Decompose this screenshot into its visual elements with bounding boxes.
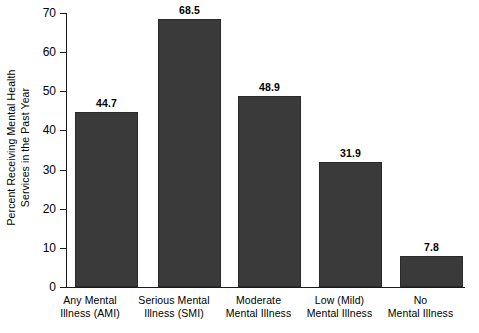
bar-3[interactable] (238, 96, 301, 287)
y-tick-label-0: 0 (20, 281, 56, 293)
bar-5[interactable] (400, 256, 463, 287)
y-tick-label-10: 10 (20, 242, 56, 254)
bar-group-no-mental-illness[interactable]: 7.8 (400, 13, 463, 287)
x-axis-label-1: Any Mental Illness (AMI) (45, 294, 135, 320)
bar-2[interactable] (158, 19, 221, 287)
y-axis-title-line-1: Percent Receiving Mental Health (5, 69, 19, 225)
bar-group-serious-mental-illness[interactable]: 68.5 (158, 13, 221, 287)
plot-area: 44.7 68.5 48.9 31.9 7.8 (67, 13, 465, 287)
x-axis-line (66, 287, 465, 288)
y-tick-mark-70 (60, 13, 66, 14)
bar-value-label-4: 31.9 (319, 148, 382, 159)
y-tick-label-60: 60 (20, 46, 56, 58)
y-tick-label-30: 30 (20, 164, 56, 176)
bar-1[interactable] (75, 112, 138, 287)
bar-chart: Percent Receiving Mental Health Services… (0, 0, 479, 333)
y-tick-label-40: 40 (20, 124, 56, 136)
x-axis-label-5-line-2: Mental Illness (370, 307, 471, 320)
x-axis-label-1-line-2: Illness (AMI) (45, 307, 135, 320)
y-tick-label-20: 20 (20, 203, 56, 215)
y-tick-mark-30 (60, 170, 66, 171)
y-tick-mark-40 (60, 130, 66, 131)
x-axis-label-1-line-1: Any Mental (45, 294, 135, 307)
bar-value-label-1: 44.7 (75, 98, 138, 109)
bar-value-label-5: 7.8 (400, 242, 463, 253)
y-tick-mark-60 (60, 52, 66, 53)
y-tick-label-50: 50 (20, 85, 56, 97)
y-tick-mark-50 (60, 91, 66, 92)
bar-group-any-mental-illness[interactable]: 44.7 (75, 13, 138, 287)
y-tick-mark-10 (60, 248, 66, 249)
y-tick-mark-0 (60, 287, 66, 288)
bar-group-moderate-mental-illness[interactable]: 48.9 (238, 13, 301, 287)
x-axis-label-5-line-1: No (370, 294, 471, 307)
bar-4[interactable] (319, 162, 382, 287)
x-axis-label-5: No Mental Illness (370, 294, 471, 320)
y-tick-mark-20 (60, 209, 66, 210)
y-tick-label-70: 70 (20, 7, 56, 19)
bar-value-label-3: 48.9 (238, 82, 301, 93)
bar-group-low-mild-mental-illness[interactable]: 31.9 (319, 13, 382, 287)
bar-value-label-2: 68.5 (158, 5, 221, 16)
